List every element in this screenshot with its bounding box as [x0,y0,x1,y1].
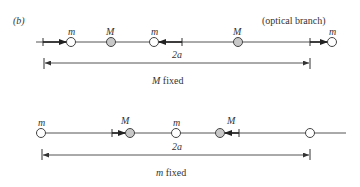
mass-label: m [173,117,180,128]
mass-label: m [68,26,75,37]
caption-italic: m [156,167,163,178]
mass-label: M [105,26,115,37]
light-mass [37,129,46,138]
top-caption: M fixed [151,75,183,86]
heavy-mass [107,38,116,47]
bottom-caption: m fixed [156,167,186,178]
light-mass [328,38,337,47]
light-mass [150,38,159,47]
caption-rest: fixed [160,75,183,86]
mass-label: M [226,115,236,126]
top-chain: (optical branch) m M m M m 2a M fixed [36,15,337,86]
heavy-mass [126,129,135,138]
lattice-vibration-diagram: (b) (optical branch) m M m M m 2a M [0,0,360,187]
panel-label: (b) [13,15,25,27]
heavy-mass [234,38,243,47]
dimension-label: 2a [172,49,182,60]
bottom-chain: m M m M 2a m fixed [36,115,346,178]
caption-rest: fixed [163,167,186,178]
light-mass [172,129,181,138]
mass-label: m [38,117,45,128]
light-mass [306,129,315,138]
mass-label: m [151,26,158,37]
light-mass [67,38,76,47]
heavy-mass [216,129,225,138]
optical-branch-label: (optical branch) [262,15,326,27]
mass-label: m [329,26,336,37]
mass-label: M [232,26,242,37]
mass-label: M [120,115,130,126]
dimension-label: 2a [172,141,182,152]
